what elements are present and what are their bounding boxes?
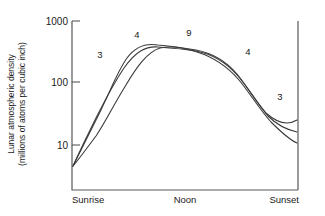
y-tick-label-1000: 1000	[46, 16, 69, 27]
x-tick-label-noon: Noon	[174, 194, 197, 205]
axis-lines	[72, 21, 298, 190]
curve-label-left-3: 3	[97, 49, 102, 60]
data-curve-series-4	[73, 45, 297, 166]
y-axis-title-line2: (millions of atoms per cubic inch)	[17, 42, 27, 166]
data-curve-series-9	[73, 47, 297, 166]
x-tick-label-sunrise: Sunrise	[72, 194, 104, 205]
y-axis-title: Lunar atmospheric density (millions of a…	[6, 42, 27, 166]
y-tick-label-10: 10	[57, 140, 69, 151]
curve-label-right-4: 4	[245, 46, 250, 57]
x-tick-label-sunset: Sunset	[269, 194, 299, 205]
curve-label-peak-9: 9	[186, 27, 191, 38]
y-axis-title-line1: Lunar atmospheric density	[6, 53, 16, 153]
data-curve-series-3	[73, 47, 297, 166]
chart-figure: Lunar atmospheric density (millions of a…	[0, 0, 325, 216]
chart-canvas: Lunar atmospheric density (millions of a…	[0, 0, 325, 216]
y-tick-label-100: 100	[51, 77, 68, 88]
curve-label-left-4: 4	[134, 29, 139, 40]
curve-label-right-3: 3	[277, 91, 282, 102]
